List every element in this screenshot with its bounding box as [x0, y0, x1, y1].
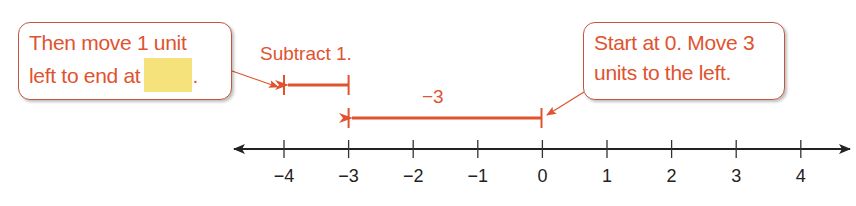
callout-left-period: .	[192, 64, 198, 87]
jump-arrow-subtract-1	[284, 75, 349, 95]
subtract-label: Subtract 1.	[260, 43, 352, 65]
tick-label: 1	[587, 166, 627, 187]
minus-three-label: −3	[422, 86, 444, 108]
tick-label: 4	[781, 166, 821, 187]
tick-label: −2	[393, 166, 433, 187]
answer-blank[interactable]	[144, 58, 192, 92]
tick-label: −3	[329, 166, 369, 187]
callout-right-line1: Start at 0. Move 3	[594, 28, 774, 58]
callout-start-instruction: Start at 0. Move 3 units to the left.	[583, 22, 785, 100]
jump-arrow-minus-3	[349, 108, 542, 128]
tick-label: 2	[652, 166, 692, 187]
callout-right-line2: units to the left.	[594, 58, 774, 88]
callout-left-line2-text: left to end at	[29, 64, 140, 87]
tick-label: −4	[264, 166, 304, 187]
tick-label: −1	[458, 166, 498, 187]
tick-label: 0	[522, 166, 562, 187]
callout-left-line1: Then move 1 unit	[29, 28, 221, 58]
callout-left-line2: left to end at.	[29, 58, 221, 92]
callout-end-instruction: Then move 1 unit left to end at.	[18, 22, 232, 100]
tick-label: 3	[716, 166, 756, 187]
